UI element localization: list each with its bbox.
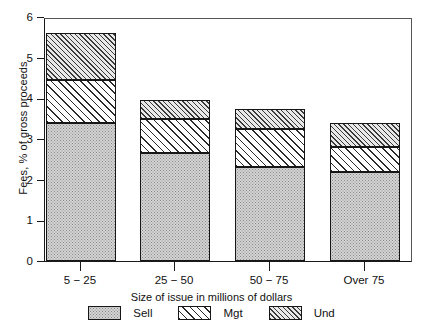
bar-segment-und (235, 109, 305, 129)
y-axis-tick-label: 5 (14, 53, 33, 64)
y-axis-tick (37, 261, 44, 262)
bar-segment-und (46, 33, 116, 80)
y-axis-tick (37, 139, 44, 140)
x-axis-tick-label: 25 − 50 (129, 274, 219, 286)
bar-2 (140, 100, 210, 261)
y-axis-title: Fees, % of gross proceeds (17, 43, 29, 213)
y-axis-tick (37, 58, 44, 59)
chart-legend: SellMgtUnd (0, 306, 423, 320)
y-axis-tick-label: 4 (14, 93, 33, 104)
bar-segment-sell (140, 153, 210, 261)
legend-swatch-sell (88, 306, 121, 320)
x-axis-tick (174, 262, 175, 271)
x-axis-tick-label: 50 − 75 (224, 274, 314, 286)
y-axis-tick-label: 3 (14, 134, 33, 145)
legend-swatch-mgt (178, 306, 211, 320)
y-axis-tick-label: 0 (14, 256, 33, 267)
y-axis-tick-label: 6 (14, 12, 33, 23)
plot-area (44, 18, 412, 262)
bar-1 (46, 33, 116, 261)
legend-label-mgt: Mgt (223, 307, 242, 319)
bar-segment-mgt (235, 129, 305, 168)
y-axis-tick (37, 17, 44, 18)
bar-segment-mgt (140, 119, 210, 154)
legend-label-sell: Sell (133, 307, 152, 319)
legend-item-und: Und (269, 306, 335, 320)
legend-swatch-und (269, 306, 302, 320)
bar-segment-mgt (330, 147, 400, 171)
y-axis-tick-label: 2 (14, 175, 33, 186)
bar-segment-und (140, 100, 210, 118)
x-axis-title: Size of issue in millions of dollars (0, 291, 423, 303)
bar-segment-sell (46, 123, 116, 261)
x-axis-tick-label: Over 75 (319, 274, 409, 286)
y-axis-tick-label: 1 (14, 215, 33, 226)
bar-3 (235, 109, 305, 262)
x-axis-tick (364, 262, 365, 271)
y-axis-tick (37, 99, 44, 100)
x-axis-tick (80, 262, 81, 271)
bar-4 (330, 123, 400, 261)
chart-figure: Fees, % of gross proceeds 0123456 5 − 25… (0, 0, 423, 328)
bar-segment-sell (235, 167, 305, 261)
legend-item-sell: Sell (88, 306, 178, 320)
legend-item-mgt: Mgt (178, 306, 268, 320)
y-axis-tick (37, 180, 44, 181)
bar-segment-mgt (46, 80, 116, 123)
legend-label-und: Und (314, 307, 335, 319)
bar-segment-sell (330, 172, 400, 261)
x-axis-tick-label: 5 − 25 (35, 274, 125, 286)
x-axis-tick (269, 262, 270, 271)
bar-segment-und (330, 123, 400, 147)
bars-layer (45, 19, 411, 261)
y-axis-tick (37, 221, 44, 222)
